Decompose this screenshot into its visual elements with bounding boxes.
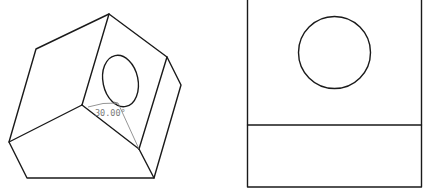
- front-view-outline: [248, 0, 422, 187]
- edge-left-to-center: [9, 105, 82, 142]
- hole-circle: [299, 17, 371, 89]
- hole-ellipse: [98, 52, 143, 110]
- edge-inner-to-right-upper: [139, 57, 167, 149]
- edge-inner-to-bottom-right: [139, 149, 154, 178]
- front-view: [248, 0, 422, 187]
- drawing-canvas: 30.00°: [0, 0, 429, 194]
- angle-dimension: 30.00°: [88, 102, 139, 150]
- angle-label: 30.00°: [95, 108, 126, 118]
- isometric-view: 30.00°: [9, 14, 181, 178]
